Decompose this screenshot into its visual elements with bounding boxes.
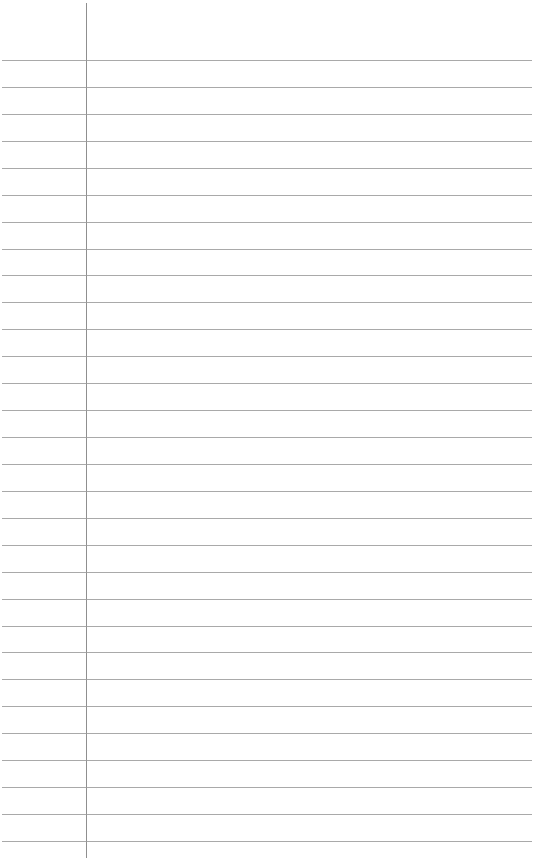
ruled-line: [2, 87, 532, 88]
ruled-line: [2, 329, 532, 330]
ruled-line: [2, 706, 532, 707]
ruled-line: [2, 410, 532, 411]
ruled-line: [2, 168, 532, 169]
ruled-line: [2, 356, 532, 357]
ruled-line: [2, 275, 532, 276]
ruled-line: [2, 249, 532, 250]
ruled-line: [2, 626, 532, 627]
ruled-line: [2, 787, 532, 788]
ruled-line: [2, 518, 532, 519]
ruled-line: [2, 437, 532, 438]
lined-paper-page: [0, 0, 534, 861]
ruled-line: [2, 841, 532, 842]
ruled-line: [2, 572, 532, 573]
ruled-line: [2, 464, 532, 465]
ruled-line: [2, 302, 532, 303]
ruled-line: [2, 545, 532, 546]
ruled-line: [2, 195, 532, 196]
ruled-line: [2, 60, 532, 61]
ruled-line: [2, 383, 532, 384]
ruled-line: [2, 760, 532, 761]
ruled-line: [2, 599, 532, 600]
ruled-line: [2, 222, 532, 223]
ruled-line: [2, 679, 532, 680]
ruled-line: [2, 652, 532, 653]
ruled-line: [2, 814, 532, 815]
ruled-line: [2, 491, 532, 492]
ruled-line: [2, 141, 532, 142]
margin-line: [86, 3, 87, 858]
ruled-line: [2, 733, 532, 734]
ruled-line: [2, 114, 532, 115]
